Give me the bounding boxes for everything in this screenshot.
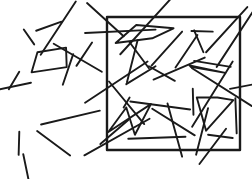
- bl-blade-nw: [19, 132, 20, 155]
- quadrant-bottom-right-vane-se-lower: [193, 89, 194, 115]
- figure-canvas: Pinwheel tangram dissection figures Thre…: [0, 0, 252, 179]
- quadrant-bottom-right-blade-nw: [235, 98, 236, 133]
